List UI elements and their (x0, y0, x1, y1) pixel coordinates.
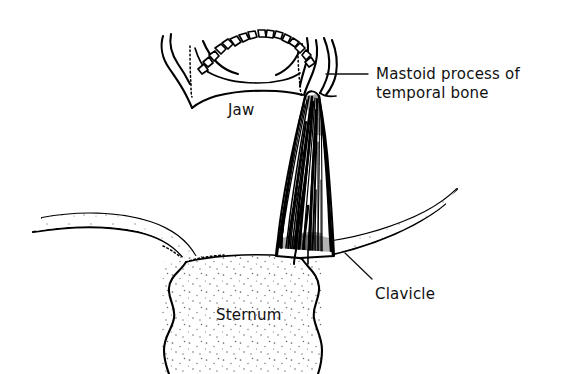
clavicle-right-fill (331, 189, 457, 254)
sternocleidomastoid-muscle (274, 91, 336, 267)
clavicle-left (33, 213, 196, 262)
clavicle-right (318, 189, 457, 256)
label-jaw: Jaw (227, 101, 254, 119)
label-mastoid-line2: temporal bone (376, 84, 489, 102)
anatomy-figure: Mastoid process of temporal bone Jaw Cla… (0, 0, 570, 374)
label-sternum: Sternum (216, 306, 282, 324)
label-clavicle: Clavicle (375, 285, 435, 303)
leader-line-clavicle (345, 253, 372, 279)
jaw (162, 30, 317, 108)
anatomy-drawing: Mastoid process of temporal bone Jaw Cla… (0, 0, 570, 374)
label-mastoid-line1: Mastoid process of (376, 65, 520, 83)
mastoid-process (320, 38, 337, 96)
